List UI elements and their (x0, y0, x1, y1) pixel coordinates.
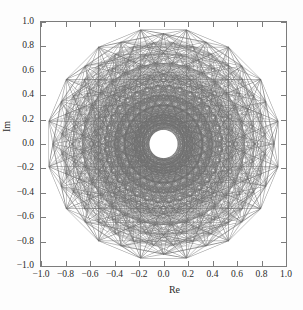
x-axis-label: Re (0, 285, 303, 295)
x-tick (188, 22, 189, 27)
y-tick (41, 168, 46, 169)
y-tick (41, 120, 46, 121)
x-tick (115, 261, 116, 266)
y-tick-label: 0.8 (0, 41, 34, 51)
x-axis-label-text: Re (169, 284, 180, 295)
y-tick (281, 193, 286, 194)
x-tick (237, 22, 238, 27)
x-tick (139, 261, 140, 266)
y-tick-label: −0.4 (0, 188, 34, 198)
y-tick (41, 144, 46, 145)
y-tick (281, 217, 286, 218)
y-tick-label: 0.0 (0, 139, 34, 149)
y-tick (281, 242, 286, 243)
plot-area (40, 21, 287, 267)
x-tick (262, 261, 263, 266)
y-tick (41, 217, 46, 218)
x-tick (286, 261, 287, 266)
x-tick (213, 261, 214, 266)
figure-container: Im 1.00.80.60.40.20.0−0.2−0.4−0.6−0.8−1.… (0, 0, 303, 310)
x-tick (66, 261, 67, 266)
chord-network-plot (41, 22, 286, 266)
y-tick (41, 193, 46, 194)
x-tick (115, 22, 116, 27)
y-tick (281, 266, 286, 267)
x-tick (188, 261, 189, 266)
x-tick (41, 22, 42, 27)
y-tick (281, 95, 286, 96)
y-tick (41, 95, 46, 96)
y-tick (41, 242, 46, 243)
y-tick (281, 144, 286, 145)
y-tick-label: 1.0 (0, 17, 34, 27)
y-tick (281, 71, 286, 72)
y-tick (41, 71, 46, 72)
x-tick (139, 22, 140, 27)
x-tick (164, 22, 165, 27)
y-tick (281, 46, 286, 47)
x-tick (213, 22, 214, 27)
x-tick (164, 261, 165, 266)
y-tick-label: 0.4 (0, 90, 34, 100)
x-tick (90, 22, 91, 27)
x-tick (286, 22, 287, 27)
y-tick (281, 168, 286, 169)
y-tick-label: 0.2 (0, 115, 34, 125)
x-tick (262, 22, 263, 27)
x-tick (90, 261, 91, 266)
y-tick (41, 266, 46, 267)
x-tick (237, 261, 238, 266)
y-tick-label: −0.8 (0, 237, 34, 247)
x-tick-label: 1.0 (266, 270, 303, 280)
y-tick-label: 0.6 (0, 66, 34, 76)
y-tick (281, 120, 286, 121)
y-tick-label: −0.6 (0, 212, 34, 222)
x-tick (41, 261, 42, 266)
x-tick (66, 22, 67, 27)
y-tick (41, 46, 46, 47)
y-tick-label: −0.2 (0, 163, 34, 173)
